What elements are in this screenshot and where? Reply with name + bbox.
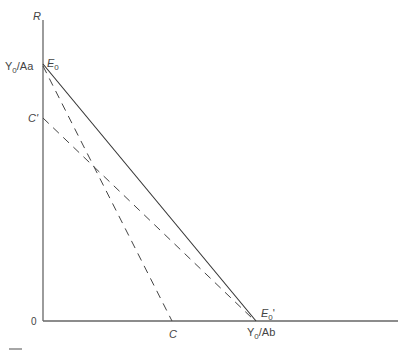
dashed-line-E0-C (43, 66, 172, 321)
point-E0-label: E0 (47, 57, 59, 72)
origin-label: 0 (31, 316, 37, 327)
point-C-label: C (169, 328, 177, 340)
y-intercept-label: Y0/Aa (5, 60, 34, 75)
point-Cprime-label: C' (28, 112, 39, 124)
x-intercept-label: Y0/Ab (247, 326, 275, 341)
diagram: R 0 Y0/Aa E0 C' C E0' Y0/Ab (0, 0, 410, 351)
dashed-line-Cprime-E0prime (43, 118, 254, 320)
y-axis-label: R (33, 10, 41, 22)
point-E0prime-label: E0' (261, 307, 275, 322)
budget-line-solid (43, 64, 256, 321)
